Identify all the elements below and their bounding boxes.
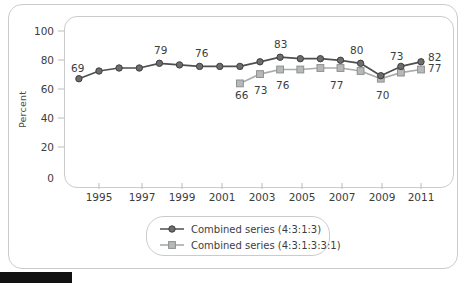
data-point-marker[interactable] [257,71,264,78]
data-point-marker[interactable] [96,68,102,74]
data-point-marker[interactable] [76,76,82,82]
y-axis-ticks [58,31,64,147]
series-line [79,57,421,78]
data-point-marker[interactable] [418,66,425,73]
data-point-marker[interactable] [317,56,323,62]
chart-figure: Percent 100 80 60 40 20 0 1995 1997 1999… [0,0,467,285]
data-point-marker[interactable] [297,56,303,62]
point-label-s2-2011: 77 [428,62,441,74]
series-combined-4-3-1-3 [76,54,424,82]
legend-marker-circle-icon [159,223,185,235]
data-point-marker[interactable] [116,65,122,71]
data-point-marker[interactable] [297,66,304,73]
data-point-marker[interactable] [357,68,364,75]
data-point-marker[interactable] [378,73,384,79]
data-point-marker[interactable] [337,57,343,63]
point-label-s1-2008: 80 [350,44,363,56]
data-point-marker[interactable] [196,63,202,69]
data-point-marker[interactable] [217,63,223,69]
data-point-marker[interactable] [156,60,162,66]
data-point-marker[interactable] [398,63,404,69]
point-label-s2-2010: 73 [390,50,403,62]
data-point-marker[interactable] [357,60,363,66]
point-label-s2-2009: 70 [376,89,389,101]
point-label-s1-1998: 79 [154,44,167,56]
x-axis-ticks [99,183,421,189]
point-label-s1-1994: 69 [71,62,84,74]
point-label-s2-2002: 66 [235,89,248,101]
data-point-marker[interactable] [277,54,283,60]
data-point-marker[interactable] [237,63,243,69]
chart-legend: Combined series (4:3:1:3) Combined serie… [146,216,330,256]
data-point-marker[interactable] [337,65,344,72]
data-point-marker[interactable] [398,69,405,76]
data-point-marker[interactable] [418,59,424,65]
data-point-marker[interactable] [237,80,244,87]
legend-label-series2: Combined series (4:3:1:3:3:1) [191,240,341,251]
point-label-s2-2007: 77 [330,79,343,91]
legend-item-series1[interactable]: Combined series (4:3:1:3) [159,221,321,237]
data-point-marker[interactable] [136,65,142,71]
data-point-marker[interactable] [176,62,182,68]
point-label-s1-2004: 83 [274,38,287,50]
point-label-s2-2003: 73 [254,84,267,96]
legend-marker-square-icon [159,239,185,251]
data-point-marker[interactable] [257,59,263,65]
data-point-marker[interactable] [317,65,324,72]
legend-item-series2[interactable]: Combined series (4:3:1:3:3:1) [159,237,341,253]
data-point-marker[interactable] [277,66,284,73]
redaction-bar [0,272,72,283]
legend-label-series1: Combined series (4:3:1:3) [191,224,321,235]
point-label-s1-2000: 76 [195,47,208,59]
point-label-s2-2004: 76 [276,79,289,91]
